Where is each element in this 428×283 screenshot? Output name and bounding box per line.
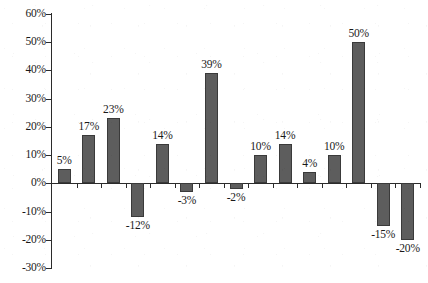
bar — [254, 155, 267, 183]
bar — [352, 42, 365, 183]
bar-value-label: 39% — [191, 59, 231, 71]
bar-value-label: 10% — [314, 141, 354, 153]
x-tick-mark — [297, 184, 298, 188]
x-tick-mark — [101, 184, 102, 188]
y-tick-mark — [46, 70, 51, 71]
x-tick-mark — [77, 184, 78, 188]
x-tick-mark — [322, 184, 323, 188]
bar — [303, 172, 316, 183]
y-axis-tick-label-wrap: 20% — [0, 121, 46, 133]
y-tick-mark — [46, 240, 51, 241]
bar-value-label: 50% — [339, 28, 379, 40]
bar — [156, 144, 169, 184]
x-tick-mark — [199, 184, 200, 188]
y-axis-tick-label: 0% — [2, 177, 46, 189]
bar-value-label: 14% — [142, 130, 182, 142]
bar-value-label: -20% — [388, 243, 428, 255]
x-tick-mark — [420, 184, 421, 188]
y-tick-mark — [46, 42, 51, 43]
y-tick-mark — [46, 268, 51, 269]
x-tick-mark — [346, 184, 347, 188]
x-tick-mark — [224, 184, 225, 188]
bar — [230, 183, 243, 189]
bar-value-label: -3% — [167, 195, 207, 207]
x-tick-mark — [371, 184, 372, 188]
bar — [58, 169, 71, 183]
bar-chart: 60%50%40%30%20%10%0%-10%-20%-30% 5%17%23… — [0, 0, 428, 283]
y-axis-tick-label-wrap: -10% — [0, 206, 46, 218]
y-axis-tick-label-wrap: 40% — [0, 64, 46, 76]
y-axis-tick-label-wrap: 0% — [0, 177, 46, 189]
y-axis-tick-label-wrap: 10% — [0, 149, 46, 161]
y-tick-mark — [46, 99, 51, 100]
y-axis-tick-label: 40% — [2, 64, 46, 76]
bar-value-label: 14% — [265, 130, 305, 142]
y-tick-mark — [46, 14, 51, 15]
bar-value-label: 10% — [241, 141, 281, 153]
bar — [180, 183, 193, 191]
y-axis-tick-label: 10% — [2, 149, 46, 161]
x-tick-mark — [273, 184, 274, 188]
y-axis-tick-label: 50% — [2, 36, 46, 48]
y-axis-tick-label-wrap: -30% — [0, 262, 46, 274]
bar — [131, 183, 144, 217]
bar — [377, 183, 390, 225]
y-axis-tick-label-wrap: 30% — [0, 93, 46, 105]
bar-value-label: -15% — [363, 229, 403, 241]
x-tick-mark — [248, 184, 249, 188]
x-tick-mark — [395, 184, 396, 188]
y-axis-tick-label-wrap: 50% — [0, 36, 46, 48]
x-tick-mark — [126, 184, 127, 188]
y-axis-tick-label: -30% — [2, 262, 46, 274]
bar-value-label: -2% — [216, 192, 256, 204]
y-axis-tick-label-wrap: 60% — [0, 8, 46, 20]
y-axis-tick-label: -10% — [2, 206, 46, 218]
x-tick-mark — [175, 184, 176, 188]
y-axis-line — [51, 13, 52, 269]
bar — [205, 73, 218, 183]
y-axis-tick-label: 30% — [2, 93, 46, 105]
y-axis-tick-label: -20% — [2, 234, 46, 246]
bar-value-label: 4% — [290, 158, 330, 170]
y-axis-tick-label: 60% — [2, 8, 46, 20]
y-tick-mark — [46, 212, 51, 213]
y-axis-tick-label-wrap: -20% — [0, 234, 46, 246]
y-tick-mark — [46, 127, 51, 128]
bar-value-label: 23% — [93, 104, 133, 116]
x-tick-mark — [150, 184, 151, 188]
bar-value-label: 17% — [69, 121, 109, 133]
y-tick-mark — [46, 183, 51, 184]
bar-value-label: 5% — [44, 155, 84, 167]
bar-value-label: -12% — [118, 220, 158, 232]
y-axis-tick-label: 20% — [2, 121, 46, 133]
